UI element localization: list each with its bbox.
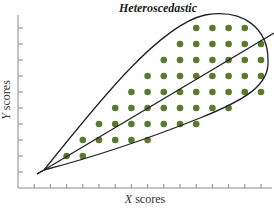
data-point — [193, 41, 200, 48]
data-point — [144, 73, 151, 80]
data-point — [242, 25, 249, 32]
data-point — [225, 89, 232, 96]
data-point — [112, 137, 119, 144]
data-point — [242, 73, 249, 80]
data-point — [112, 105, 119, 112]
data-point — [193, 105, 200, 112]
data-point — [258, 57, 265, 64]
data-point — [128, 89, 135, 96]
data-point — [242, 57, 249, 64]
data-point — [161, 57, 168, 64]
data-point — [258, 89, 265, 96]
data-point — [225, 41, 232, 48]
x-axis — [18, 184, 272, 188]
data-point — [193, 57, 200, 64]
data-point — [225, 73, 232, 80]
scatter-chart: Heteroscedastic X scores Y scores — [0, 0, 274, 208]
data-point — [177, 57, 184, 64]
x-axis-ticks — [34, 184, 261, 188]
regression-line — [44, 33, 274, 170]
data-point — [209, 41, 216, 48]
data-point — [161, 73, 168, 80]
data-point — [209, 57, 216, 64]
y-axis — [18, 15, 23, 188]
data-point — [161, 121, 168, 128]
data-point — [209, 25, 216, 32]
data-point — [177, 41, 184, 48]
y-axis-label: Y scores — [0, 80, 13, 120]
upper-wedge-line — [37, 170, 44, 174]
data-point — [242, 41, 249, 48]
data-point — [209, 73, 216, 80]
data-point — [161, 105, 168, 112]
data-point — [177, 105, 184, 112]
data-point — [128, 105, 135, 112]
data-points — [63, 25, 264, 160]
data-point — [193, 121, 200, 128]
chart-title: Heteroscedastic — [118, 1, 198, 15]
data-point — [80, 137, 87, 144]
data-point — [96, 121, 103, 128]
envelope-outline — [37, 14, 268, 174]
data-point — [209, 89, 216, 96]
data-point — [144, 121, 151, 128]
data-point — [225, 25, 232, 32]
data-point — [161, 89, 168, 96]
data-point — [144, 89, 151, 96]
x-axis-label: X scores — [124, 192, 166, 206]
data-point — [128, 121, 135, 128]
y-axis-ticks — [18, 28, 23, 172]
data-point — [209, 105, 216, 112]
data-point — [193, 89, 200, 96]
data-point — [193, 25, 200, 32]
data-point — [177, 73, 184, 80]
